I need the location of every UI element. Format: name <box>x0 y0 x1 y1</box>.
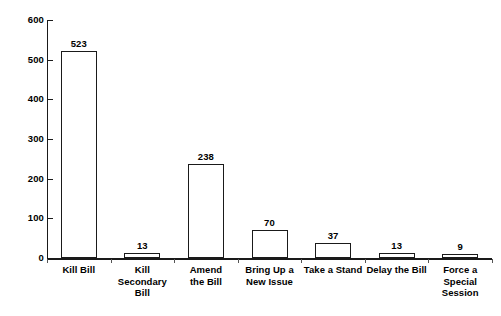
y-tick-label: 300 <box>28 133 44 144</box>
x-tick-mark <box>238 259 239 263</box>
bar-value-label: 13 <box>122 240 162 251</box>
bar-value-label: 9 <box>440 241 480 252</box>
y-tick-mark <box>48 20 53 21</box>
x-tick-mark <box>492 259 493 263</box>
bar <box>188 164 224 258</box>
bar-value-label: 37 <box>313 230 353 241</box>
y-tick: 0 <box>0 258 53 259</box>
x-tick-mark <box>428 259 429 263</box>
bar <box>315 243 351 258</box>
y-tick-mark <box>48 60 53 61</box>
bar-value-label: 70 <box>250 217 290 228</box>
bar <box>124 253 160 258</box>
bar-value-label: 523 <box>59 38 99 49</box>
bar <box>61 51 97 258</box>
y-tick-label: 0 <box>39 252 44 263</box>
bar-chart: 0100200300400500600 523132387037139 Kill… <box>0 0 501 316</box>
x-category-label: Take a Stand <box>301 264 365 276</box>
x-category-label: Amend the Bill <box>174 264 238 287</box>
x-axis-line <box>47 258 492 260</box>
y-tick-label: 400 <box>28 93 44 104</box>
y-tick-mark <box>48 218 53 219</box>
y-tick: 200 <box>0 179 53 180</box>
x-tick-mark <box>47 259 48 263</box>
y-tick-label: 500 <box>28 54 44 65</box>
y-tick-label: 200 <box>28 173 44 184</box>
bar <box>379 253 415 258</box>
bar <box>252 230 288 258</box>
bar-value-label: 238 <box>186 151 226 162</box>
y-tick-label: 100 <box>28 212 44 223</box>
y-tick: 400 <box>0 99 53 100</box>
x-category-label: Bring Up a New Issue <box>238 264 302 287</box>
x-category-label: Force a Special Session <box>428 264 492 299</box>
x-tick-mark <box>111 259 112 263</box>
bar-value-label: 13 <box>377 240 417 251</box>
y-tick: 100 <box>0 218 53 219</box>
x-category-label: Delay the Bill <box>365 264 429 276</box>
x-tick-mark <box>301 259 302 263</box>
y-tick: 500 <box>0 60 53 61</box>
y-tick-mark <box>48 139 53 140</box>
x-tick-mark <box>365 259 366 263</box>
x-category-label: Kill Secondary Bill <box>111 264 175 299</box>
y-tick-label: 600 <box>28 14 44 25</box>
x-category-label: Kill Bill <box>47 264 111 276</box>
y-tick: 300 <box>0 139 53 140</box>
bar <box>442 254 478 258</box>
y-tick-mark <box>48 99 53 100</box>
y-tick: 600 <box>0 20 53 21</box>
x-tick-mark <box>174 259 175 263</box>
y-tick-mark <box>48 179 53 180</box>
